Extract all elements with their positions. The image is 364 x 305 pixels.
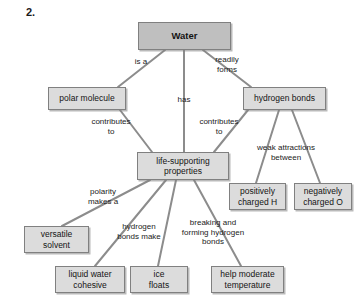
node-label-life_supporting: life-supporting properties [156, 156, 209, 177]
node-versatile_solvent: versatile solvent [24, 226, 89, 253]
edge-water-polar [118, 50, 165, 87]
node-negative_o: negatively charged O [294, 183, 352, 210]
node-polar_molecule: polar molecule [48, 87, 126, 110]
edge-label-weak-attractions: weak attractions between [250, 143, 322, 162]
concept-map-page: 2. Waterpolar moleculehydrogen bondslife… [0, 0, 364, 305]
edge-label-contributes-to-right: contributes to [193, 117, 245, 136]
node-label-liquid_cohesive: liquid water cohesive [69, 269, 112, 290]
node-water: Water [138, 22, 231, 50]
node-label-negative_o: negatively charged O [303, 186, 343, 207]
node-moderate_temp: help moderate temperature [211, 266, 284, 293]
edge-label-is-a: is a [126, 57, 156, 67]
node-label-versatile_solvent: versatile solvent [41, 229, 73, 250]
node-ice_floats: ice floats [130, 266, 188, 293]
node-label-moderate_temp: help moderate temperature [220, 269, 274, 290]
node-label-positive_h: positively charged H [238, 186, 277, 207]
node-label-water: Water [171, 31, 197, 42]
node-label-hydrogen_bonds: hydrogen bonds [254, 93, 315, 104]
node-hydrogen_bonds: hydrogen bonds [243, 87, 326, 110]
edge-label-has: has [168, 95, 200, 105]
node-positive_h: positively charged H [229, 183, 286, 210]
edge-label-readily-forms: readily forms [207, 55, 247, 74]
node-label-ice_floats: ice floats [149, 269, 169, 290]
node-life_supporting: life-supporting properties [137, 152, 229, 180]
edge-label-polarity-makes-a: polarity makes a [82, 187, 124, 206]
node-liquid_cohesive: liquid water cohesive [55, 266, 125, 293]
node-label-polar_molecule: polar molecule [59, 93, 114, 104]
edge-label-breaking-forming: breaking and forming hydrogen bonds [175, 218, 251, 247]
edge-label-contributes-to-left: contributes to [85, 117, 137, 136]
edge-label-hydrogen-bonds-make: hydrogen bonds make [112, 222, 166, 241]
